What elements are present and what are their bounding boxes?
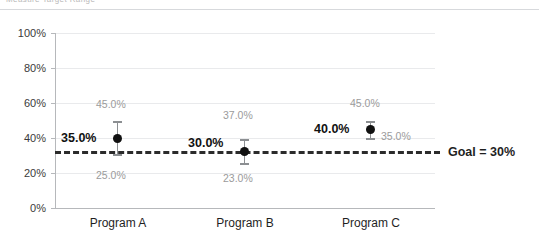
x-category-label-program-b: Program B [185,217,305,229]
upper-bound-label-program-c: 45.0% [350,98,380,109]
goal-label: Goal = 30% [448,146,515,159]
y-tick-label-40: 40% [6,133,46,144]
error-cap-lower-program-b [240,163,249,165]
error-cap-lower-program-c [366,138,375,140]
y-tick-label-60: 60% [6,98,46,109]
x-category-label-program-c: Program C [311,217,431,229]
y-tick-label-100: 100% [6,28,46,39]
upper-bound-label-program-b: 37.0% [223,110,253,121]
lower-bound-label-program-a: 25.0% [96,170,126,181]
error-bar-chart: 100% 80% 60% 40% 20% 0% Goal = 30% 35.0%… [0,10,539,238]
data-point-program-b[interactable] [240,147,249,156]
y-tick-label-0: 0% [6,203,46,214]
gridline-100 [55,33,435,34]
lower-bound-label-program-c: 35.0% [381,131,411,142]
y-tick-20 [51,173,55,174]
y-tick-40 [51,138,55,139]
error-cap-lower-program-a [113,154,122,156]
lower-bound-label-program-b: 23.0% [223,173,253,184]
y-tick-100 [51,33,55,34]
x-axis-line [55,208,435,209]
y-tick-0 [51,208,55,209]
y-tick-80 [51,68,55,69]
error-cap-upper-program-a [113,121,122,123]
y-tick-label-80: 80% [6,63,46,74]
y-tick-60 [51,103,55,104]
upper-bound-label-program-a: 45.0% [96,99,126,110]
data-point-program-c[interactable] [366,125,375,134]
error-cap-upper-program-b [240,139,249,141]
header-text: Measure Target Range [6,0,95,4]
value-label-program-c: 40.0% [314,123,349,136]
value-label-program-a: 35.0% [61,132,96,145]
y-tick-label-20: 20% [6,168,46,179]
error-cap-upper-program-c [366,121,375,123]
gridline-80 [55,68,435,69]
x-category-label-program-a: Program A [58,217,178,229]
y-axis-line [55,33,56,208]
value-label-program-b: 30.0% [188,137,223,150]
data-point-program-a[interactable] [113,134,122,143]
